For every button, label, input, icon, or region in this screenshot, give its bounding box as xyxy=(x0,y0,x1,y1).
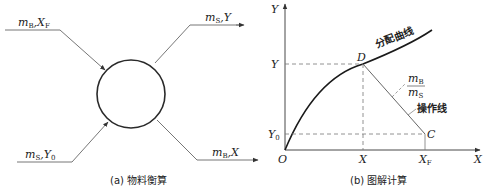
operating-line-label: 操作线 xyxy=(417,102,447,114)
graphical-calculation-panel: Y X O Y Y0 X XF D C 分配曲线 操作线 mB mS (b) 图… xyxy=(268,3,483,186)
x-axis-label: X xyxy=(473,153,483,166)
operating-line-leader xyxy=(408,109,416,115)
caption-b: (b) 图解计算 xyxy=(350,174,407,186)
feed-stream-line xyxy=(5,30,105,70)
slope-leader xyxy=(392,84,405,97)
raffinate-stream-line xyxy=(157,120,258,160)
caption-a: (a) 物料衡算 xyxy=(110,174,167,186)
point-c-label: C xyxy=(427,128,436,141)
extractor-circle xyxy=(97,60,165,128)
point-d-label: D xyxy=(356,51,366,64)
extract-label: mS,Y xyxy=(205,11,233,25)
material-balance-panel: mB,XF mS,Y mS,Y0 mB,X (a) 物料衡算 xyxy=(5,11,258,186)
y0-tick-label: Y0 xyxy=(268,128,280,142)
x-tick-label: X xyxy=(358,153,368,166)
extract-stream-line xyxy=(155,25,240,63)
raffinate-label: mB,X xyxy=(212,146,240,160)
solvent-label: mS,Y0 xyxy=(25,148,55,162)
slope-denominator: mS xyxy=(408,86,423,100)
feed-label: mB,XF xyxy=(18,16,50,30)
xf-tick-label: XF xyxy=(418,153,432,167)
distribution-curve-label: 分配曲线 xyxy=(373,24,415,50)
y-tick-label: Y xyxy=(271,58,280,71)
extraction-diagram: mB,XF mS,Y mS,Y0 mB,X (a) 物料衡算 Y X O Y Y… xyxy=(0,0,487,194)
origin-label: O xyxy=(278,153,287,166)
y-axis-label: Y xyxy=(271,3,280,16)
slope-numerator: mB xyxy=(408,72,424,86)
